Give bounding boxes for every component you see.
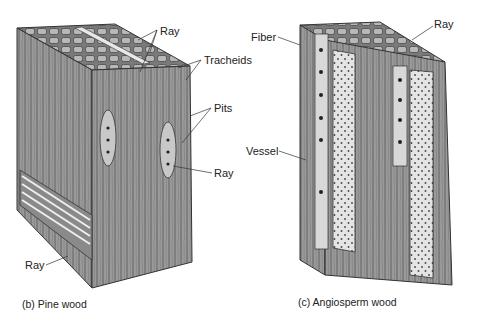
pine-wood-caption: (b) Pine wood — [22, 298, 87, 310]
pine-pits-label: Pits — [214, 102, 232, 114]
angiosperm-wood-caption: (c) Angiosperm wood — [298, 296, 397, 308]
angiosperm-ray-label: Ray — [434, 18, 454, 30]
angiosperm-fiber-label: Fiber — [251, 31, 276, 43]
pine-ray-top-label: Ray — [160, 25, 180, 37]
pine-wood-block — [17, 24, 192, 288]
wood-diagram-art — [0, 0, 479, 316]
angiosperm-wood-block — [300, 22, 452, 285]
pine-ray-bottom-label: Ray — [25, 259, 45, 271]
pine-ray-right-label: Ray — [214, 167, 234, 179]
pine-tracheids-label: Tracheids — [204, 54, 252, 66]
angiosperm-vessel-label: Vessel — [246, 145, 278, 157]
